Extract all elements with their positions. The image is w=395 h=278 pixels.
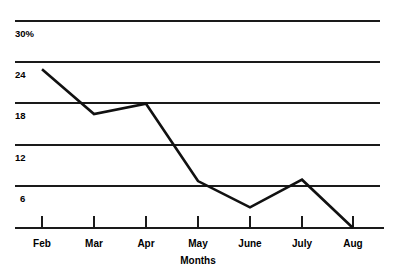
x-tick-label-july: July xyxy=(292,238,312,249)
x-tick-label-feb: Feb xyxy=(33,238,51,249)
x-axis-tick-marks xyxy=(42,216,353,228)
gridlines xyxy=(15,21,380,186)
y-tick-label-30: 30% xyxy=(15,28,35,39)
line-chart: 30% 24 18 12 6 Feb Mar Apr May June July… xyxy=(0,0,395,278)
x-tick-label-may: May xyxy=(188,238,208,249)
x-tick-label-mar: Mar xyxy=(85,238,103,249)
x-axis-title: Months xyxy=(180,255,216,266)
chart-canvas: 30% 24 18 12 6 Feb Mar Apr May June July… xyxy=(0,0,395,278)
x-axis-tick-labels: Feb Mar Apr May June July Aug xyxy=(33,238,363,249)
x-tick-label-apr: Apr xyxy=(137,238,154,249)
data-series-line xyxy=(42,69,353,228)
y-axis-tick-labels: 30% 24 18 12 6 xyxy=(15,28,35,204)
y-tick-label-6: 6 xyxy=(20,193,25,204)
y-tick-label-18: 18 xyxy=(15,110,26,121)
x-tick-label-aug: Aug xyxy=(343,238,362,249)
y-tick-label-12: 12 xyxy=(15,152,26,163)
x-tick-label-june: June xyxy=(238,238,262,249)
y-tick-label-24: 24 xyxy=(15,69,26,80)
